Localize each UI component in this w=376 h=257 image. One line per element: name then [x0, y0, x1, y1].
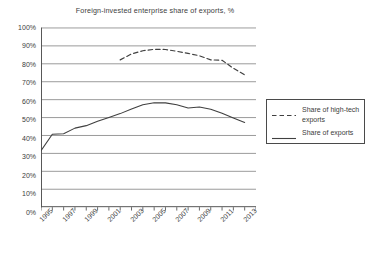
- chart-container: Foreign-invested enterprise share of exp…: [0, 0, 376, 257]
- y-tick-label: 80%: [8, 60, 36, 69]
- legend-label-high-tech: Share of high-tech exports: [302, 105, 360, 124]
- y-axis: 0%10%20%30%40%50%60%70%80%90%100%: [8, 22, 36, 217]
- legend-entry-exports: Share of exports: [272, 128, 360, 138]
- y-tick-label: 50%: [8, 115, 36, 124]
- legend-entry-high-tech: Share of high-tech exports: [272, 105, 360, 124]
- plot-svg: [41, 27, 256, 212]
- chart-title: Foreign-invested enterprise share of exp…: [42, 6, 268, 15]
- x-axis: 1995199719992001200320052007200920112013: [0, 214, 300, 256]
- y-tick-label: 10%: [8, 189, 36, 198]
- gridlines: [41, 28, 256, 189]
- plot-area: [41, 27, 256, 212]
- y-tick-label: 30%: [8, 152, 36, 161]
- y-tick-label: 70%: [8, 78, 36, 87]
- y-tick-label: 90%: [8, 41, 36, 50]
- legend-label-exports: Share of exports: [302, 128, 360, 138]
- y-tick-label: 100%: [8, 23, 36, 32]
- legend-swatch-solid-icon: [272, 129, 296, 138]
- y-tick-label: 40%: [8, 134, 36, 143]
- series-line-share-of-high-tech-exports: [120, 49, 244, 75]
- series-line-share-of-exports: [41, 103, 245, 151]
- y-tick-label: 60%: [8, 97, 36, 106]
- x-axis-ticks: [41, 28, 256, 211]
- y-tick-label: 20%: [8, 171, 36, 180]
- legend: Share of high-tech exports Share of expo…: [266, 99, 365, 144]
- legend-swatch-dashed-icon: [272, 106, 296, 115]
